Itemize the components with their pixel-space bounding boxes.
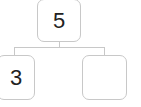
part-value-left: 3 — [10, 65, 22, 91]
part-box-left: 3 — [0, 55, 35, 100]
part-box-right[interactable] — [82, 55, 127, 100]
whole-box: 5 — [37, 0, 81, 42]
connector-bar — [14, 47, 105, 48]
whole-value: 5 — [53, 8, 65, 34]
